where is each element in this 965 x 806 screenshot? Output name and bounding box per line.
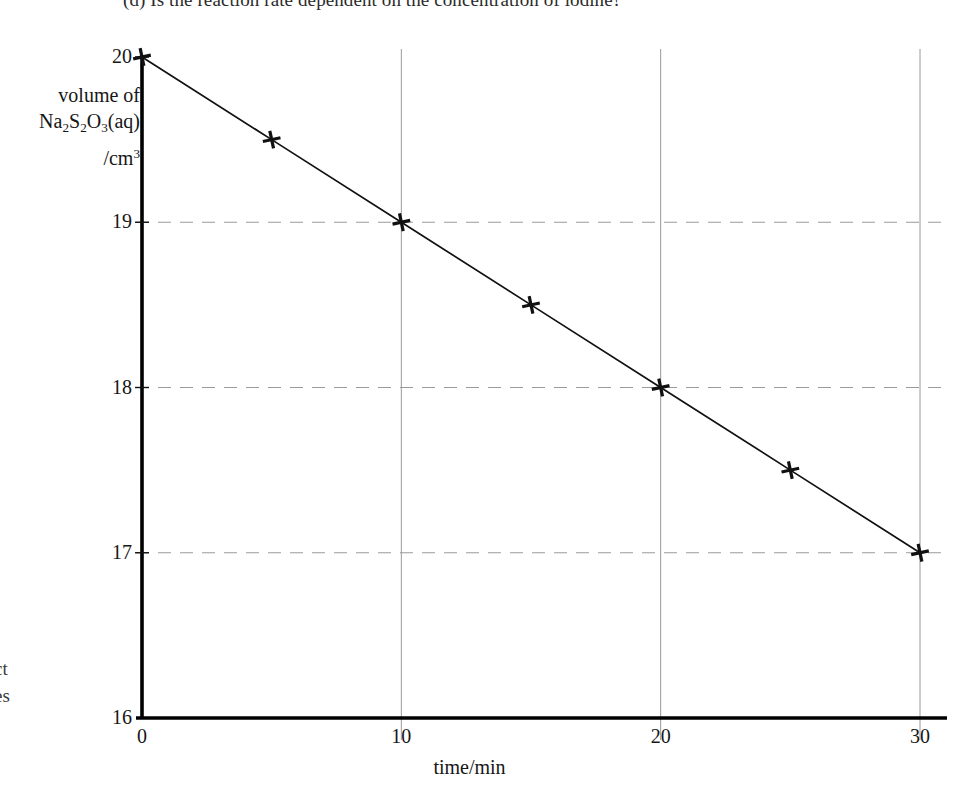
data-point-markers (131, 46, 930, 563)
marker-stroke (529, 296, 533, 314)
data-point-marker (520, 294, 541, 315)
chart-axes (136, 55, 947, 718)
data-point-marker (131, 46, 152, 67)
data-point-marker (261, 129, 282, 150)
data-point-marker (909, 542, 930, 563)
data-point-marker (391, 212, 412, 233)
page-canvas: (d) Is the reaction rate dependent on th… (0, 0, 965, 806)
marker-stroke (399, 213, 403, 231)
line-chart (0, 0, 965, 806)
marker-stroke (918, 544, 922, 562)
marker-stroke (659, 379, 663, 397)
marker-stroke (270, 131, 274, 149)
horizontal-gridlines (136, 222, 947, 553)
data-point-marker (780, 459, 801, 480)
marker-stroke (788, 461, 792, 479)
data-point-marker (650, 377, 671, 398)
